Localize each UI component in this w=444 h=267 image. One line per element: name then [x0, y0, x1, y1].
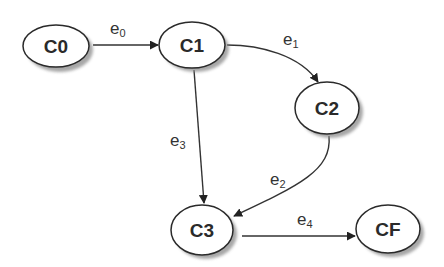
node-c3-label: C3 [190, 220, 214, 241]
node-c2-label: C2 [315, 98, 339, 119]
edge-e3-arrow [194, 70, 204, 203]
node-c2: C2 [295, 82, 363, 138]
edge-e2-label: e2 [270, 170, 286, 190]
edge-e1-label: e1 [283, 30, 299, 50]
state-diagram: e0 e1 e3 e2 e4 C0 C1 C2 C3 C [0, 0, 444, 267]
edge-e0-label: e0 [110, 19, 126, 39]
node-cf: CF [356, 205, 424, 257]
node-c1-label: C1 [180, 35, 205, 56]
node-c3: C3 [171, 205, 237, 259]
node-cf-label: CF [375, 219, 400, 240]
node-c0-label: C0 [44, 36, 68, 57]
edge-e4-label: e4 [297, 210, 313, 230]
edge-e2: e2 [234, 136, 329, 216]
edge-e3: e3 [170, 70, 204, 203]
edge-e1-arrow [227, 45, 318, 82]
edge-e2-arrow [234, 136, 329, 216]
edge-e0: e0 [93, 19, 158, 45]
node-c1: C1 [159, 22, 229, 72]
edge-e3-label: e3 [170, 131, 186, 151]
node-c0: C0 [23, 25, 93, 72]
edge-e1: e1 [227, 30, 318, 82]
edge-e4: e4 [242, 210, 355, 236]
